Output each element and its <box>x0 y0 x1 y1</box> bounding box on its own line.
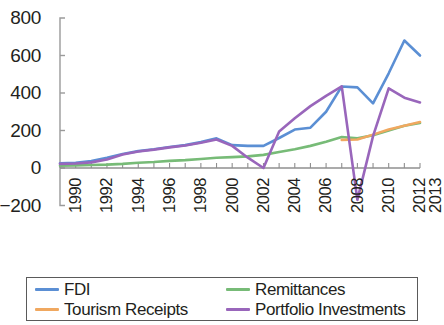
legend-label: FDI <box>64 280 90 299</box>
x-tick-label: 2013 <box>427 178 444 213</box>
legend-swatch-icon <box>35 288 59 291</box>
x-tick-label: 1998 <box>192 178 209 213</box>
legend-label: Portfolio Investments <box>255 300 405 319</box>
x-tick-label: 2000 <box>224 178 241 213</box>
x-tick-label: 2002 <box>255 178 272 213</box>
x-tick-label: 1990 <box>67 178 84 213</box>
y-tick-label: 600 <box>0 46 50 65</box>
legend-label: Remittances <box>255 280 345 299</box>
x-tick-label: 1992 <box>98 178 115 213</box>
legend-swatch-icon <box>226 288 250 291</box>
legend-item-portfolio-investments[interactable]: Portfolio Investments <box>226 300 417 320</box>
x-tick-label: 1996 <box>161 178 178 213</box>
legend-swatch-icon <box>226 308 250 311</box>
y-tick-label: 400 <box>0 83 50 102</box>
y-tick-label: 800 <box>0 8 50 27</box>
y-tick-label: 200 <box>0 121 50 140</box>
x-axis-labels: 1990199219941996199820002002200420062008… <box>0 178 424 273</box>
x-tick-label: 2004 <box>286 178 303 213</box>
x-tick-label: 2010 <box>380 178 397 213</box>
legend-item-tourism-receipts[interactable]: Tourism Receipts <box>35 300 226 320</box>
legend-label: Tourism Receipts <box>64 300 188 319</box>
series-line-fdi <box>60 41 420 164</box>
x-tick-label: 1994 <box>130 178 147 213</box>
y-tick-label: 0 <box>0 158 50 177</box>
legend-item-remittances[interactable]: Remittances <box>226 279 417 299</box>
legend: FDIRemittancesTourism ReceiptsPortfolio … <box>26 277 418 321</box>
legend-item-fdi[interactable]: FDI <box>35 279 226 299</box>
x-tick-label: 2006 <box>317 178 334 213</box>
x-tick-label: 2008 <box>349 178 366 213</box>
legend-swatch-icon <box>35 308 59 311</box>
